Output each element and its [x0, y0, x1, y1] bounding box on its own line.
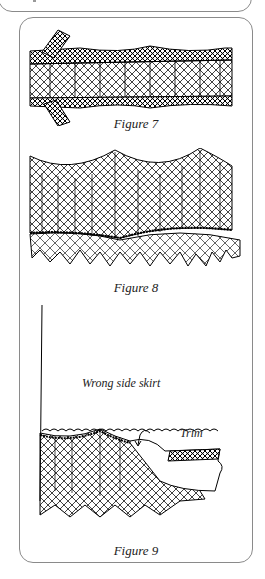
figure-7-caption: Figure 7 [20, 116, 252, 132]
figure-panel: Figure 7 Figure 8 [19, 17, 253, 563]
previous-panel-mark [33, 0, 36, 2]
figure-9-caption: Figure 9 [20, 543, 252, 559]
previous-panel-frame [0, 0, 252, 12]
figure-8-illustration [20, 148, 252, 273]
figure-7-illustration [20, 26, 252, 126]
trim-label: Trim [180, 426, 203, 441]
wrong-side-skirt-label: Wrong side skirt [82, 376, 160, 391]
figure-9-illustration [20, 301, 252, 536]
figure-8-caption: Figure 8 [20, 280, 252, 296]
